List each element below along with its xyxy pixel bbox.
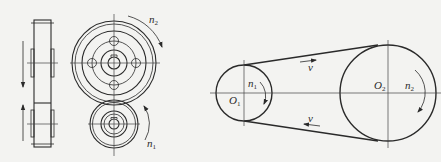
- top-belt-velocity-label: v: [308, 62, 313, 73]
- rotation-arrow-n1-icon: [144, 106, 149, 140]
- small-gear-speed-label: n1: [147, 138, 156, 151]
- driver-pulley-speed-label: n1: [248, 78, 257, 91]
- gear-side-view: [23, 20, 58, 147]
- belt-drive: [210, 40, 441, 148]
- rotation-arrow-pulley2-icon: [415, 70, 425, 112]
- driven-pulley-speed-label: n2: [405, 80, 414, 93]
- mechanical-transmission-figure: n2 n1 n1 O1 O2 n2 v v: [0, 0, 441, 162]
- bottom-belt-velocity-label: v: [308, 113, 313, 124]
- gear-front-view: [70, 14, 162, 156]
- driver-pulley-center-label: O1: [229, 95, 240, 108]
- velocity-arrow-left-icon: [304, 124, 320, 126]
- large-gear-speed-label: n2: [149, 14, 158, 27]
- driven-pulley-center-label: O2: [374, 80, 385, 93]
